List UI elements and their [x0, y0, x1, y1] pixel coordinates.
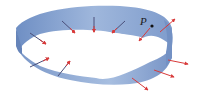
arrow-9 [168, 60, 188, 64]
point-p-marker [150, 24, 153, 27]
point-p-label: P [140, 15, 147, 27]
mobius-strip-diagram [0, 0, 204, 94]
